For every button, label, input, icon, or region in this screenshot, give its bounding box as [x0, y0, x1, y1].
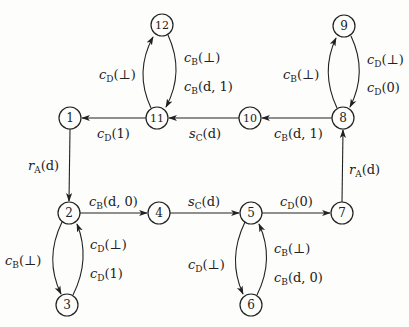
label-edge-6-5-b: cB(d, 0) [274, 270, 323, 287]
node-5: 5 [240, 202, 262, 224]
node-2: 2 [58, 202, 80, 224]
label-edge-1-2: rA(d) [28, 158, 59, 175]
label-edge-12-11-b: cB(d, 1) [184, 79, 233, 96]
label-edge-6-5-a: cB(⊥) [274, 241, 310, 258]
svg-text:12: 12 [155, 19, 169, 32]
edge-7-8 [342, 130, 343, 202]
edge-3-2 [73, 224, 83, 295]
svg-text:3: 3 [63, 298, 71, 312]
label-edge-5-6: cD(⊥) [188, 257, 225, 274]
label-edge-9-8-b: cD(0) [367, 80, 400, 97]
label-edge-2-3: cB(⊥) [5, 253, 41, 270]
label-edge-5-7: cD(0) [280, 194, 313, 211]
edge-12-11 [166, 35, 176, 107]
label-edge-4-5: sC(d) [188, 194, 220, 211]
node-12: 12 [151, 14, 173, 36]
label-edge-11-1: cD(1) [97, 126, 130, 143]
state-diagram: 1 2 3 4 5 6 7 8 9 10 11 12 rA(d) cB(d, 0… [0, 0, 409, 327]
label-edge-3-2-b: cD(1) [90, 266, 123, 283]
node-8: 8 [332, 107, 354, 129]
edge-1-2 [69, 129, 70, 201]
label-edge-3-2-a: cD(⊥) [90, 237, 127, 254]
svg-text:8: 8 [339, 111, 347, 125]
label-edge-10-11: sC(d) [189, 126, 221, 143]
svg-text:4: 4 [155, 206, 163, 220]
label-edge-9-8-a: cD(⊥) [367, 52, 404, 69]
node-4: 4 [148, 202, 170, 224]
label-edge-11-12: cD(⊥) [99, 67, 136, 84]
label-edge-7-8: rA(d) [349, 162, 380, 179]
label-edge-8-10: cB(d, 1) [274, 126, 323, 143]
svg-text:11: 11 [150, 112, 164, 125]
label-edge-12-11-a: cB(⊥) [184, 50, 220, 67]
svg-text:5: 5 [247, 206, 255, 220]
svg-text:2: 2 [65, 206, 73, 220]
edge-5-6 [235, 222, 245, 294]
label-edge-8-9: cB(⊥) [283, 67, 319, 84]
node-1: 1 [59, 107, 81, 129]
svg-text:6: 6 [247, 298, 255, 312]
node-11: 11 [146, 107, 168, 129]
node-6: 6 [240, 294, 262, 316]
svg-text:1: 1 [66, 111, 74, 125]
svg-text:9: 9 [340, 19, 348, 33]
label-edge-2-4: cB(d, 0) [89, 194, 138, 211]
node-10: 10 [239, 107, 261, 129]
svg-text:7: 7 [338, 206, 346, 220]
node-9: 9 [333, 15, 355, 37]
node-3: 3 [56, 294, 78, 316]
edge-11-12 [143, 37, 153, 108]
edge-8-9 [328, 38, 337, 108]
node-7: 7 [331, 202, 353, 224]
edge-2-3 [53, 222, 62, 294]
edge-9-8 [350, 36, 359, 107]
edge-6-5 [257, 224, 267, 295]
svg-text:10: 10 [243, 112, 257, 125]
